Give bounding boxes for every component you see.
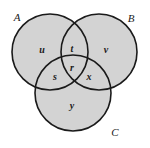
venn-circle-fills bbox=[12, 14, 137, 131]
venn-diagram-figure: A B C u t v r s x y bbox=[0, 0, 150, 148]
venn-circles-canvas bbox=[0, 0, 150, 148]
